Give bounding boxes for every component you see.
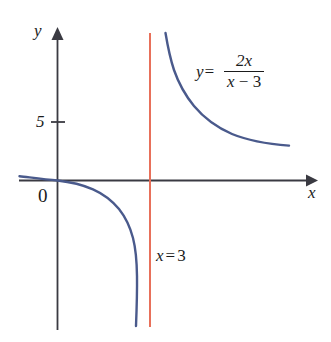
asymptote-label-value: 3	[177, 246, 186, 265]
function-graph-figure: y x 0 5 x=3 y= 2x x − 3	[0, 0, 331, 342]
equation-denominator-value: 3	[253, 72, 262, 91]
asymptote-label: x=3	[156, 247, 186, 264]
equation-denominator: x − 3	[224, 72, 264, 91]
y-axis	[52, 27, 64, 330]
equation-label: y= 2x x − 3	[196, 52, 264, 91]
equation-numerator: 2x	[233, 52, 255, 71]
asymptote-label-equals: =	[164, 246, 178, 265]
equation-lhs: y=	[196, 63, 215, 80]
y-tick-label-5: 5	[36, 113, 45, 130]
graph-canvas	[0, 0, 331, 342]
y-axis-label: y	[34, 22, 42, 39]
equation-denominator-operator: −	[235, 72, 253, 91]
y-axis-arrowhead	[52, 27, 64, 40]
equation-denominator-variable: x	[227, 72, 235, 91]
equation-fraction: 2x x − 3	[224, 52, 264, 91]
origin-label: 0	[38, 186, 48, 205]
asymptote-label-variable: x	[156, 246, 164, 265]
x-axis-label: x	[308, 184, 316, 201]
